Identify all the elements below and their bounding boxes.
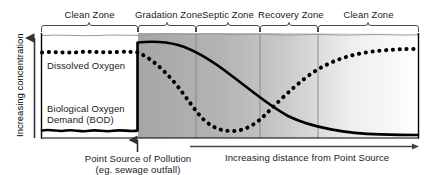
figure-root: Clean Zone Gradation Zone Septic Zone Re… [0,0,433,175]
zone-label-gradation: Gradation Zone [135,9,199,20]
zone-label-clean-1: Clean Zone [41,9,138,20]
point-source-caption-line2: (eg. sewage outfall) [58,164,218,175]
zone-label-septic: Septic Zone [197,9,259,20]
series-label-bod-line2: Demand (BOD) [47,114,114,125]
series-label-dissolved-oxygen: Dissolved Oxygen [47,60,125,71]
pollution-gradient-band [138,33,419,138]
water-quality-chart [0,0,433,175]
zone-bracket-group [42,23,419,33]
y-axis-label: Increasing concentration [14,33,25,137]
x-axis-arrow-head [412,143,419,149]
point-source-caption-line1: Point Source of Pollution [58,153,218,164]
x-axis-label: Increasing distance from Point Source [225,152,389,163]
zone-label-recovery: Recovery Zone [258,9,319,20]
zone-label-clean-2: Clean Zone [318,9,419,20]
series-label-bod-line1: Biological Oxygen [47,103,125,114]
